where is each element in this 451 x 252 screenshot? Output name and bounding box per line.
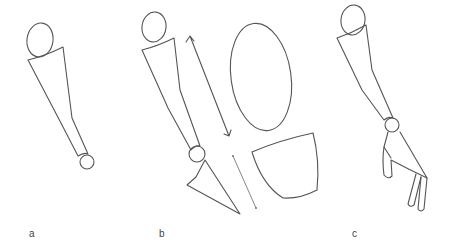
oval-shape <box>224 19 298 134</box>
measure-line <box>233 156 256 208</box>
sketch-figure <box>0 0 451 252</box>
upper-arm-b <box>142 38 200 150</box>
d-shape <box>252 133 318 198</box>
wrist-joint-b <box>189 146 205 162</box>
panel-label-a: a <box>29 228 35 239</box>
double-arrow <box>186 36 231 136</box>
hand-outline-c <box>384 147 391 158</box>
hand-triangle-b <box>187 160 240 214</box>
wrist-joint-c <box>385 118 399 132</box>
upper-arm-c <box>337 25 393 120</box>
panel-b-sketch <box>140 10 318 214</box>
line-endpoint <box>255 207 257 209</box>
wrist-joint-a <box>80 155 94 169</box>
panel-c-sketch <box>337 3 427 211</box>
shoulder-oval-b <box>140 10 168 43</box>
panel-label-c: c <box>352 228 357 239</box>
panel-label-b: b <box>159 228 165 239</box>
line-endpoint <box>232 155 234 157</box>
upper-arm-a <box>28 47 88 156</box>
panel-a-sketch <box>25 21 94 169</box>
